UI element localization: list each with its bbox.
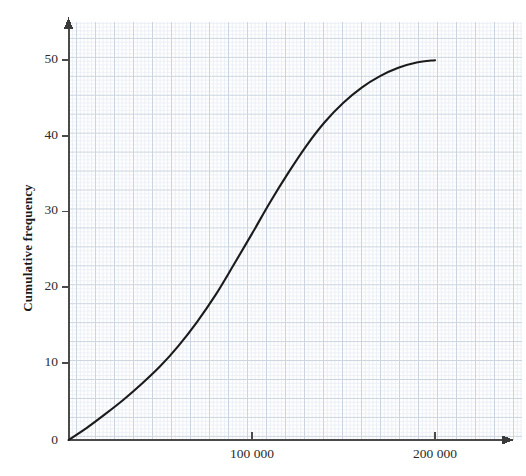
plot-area bbox=[0, 0, 526, 476]
grid-background bbox=[70, 22, 522, 441]
cumulative-frequency-chart: Cumulative frequency 0 10 20 30 40 50 10… bbox=[0, 0, 526, 476]
